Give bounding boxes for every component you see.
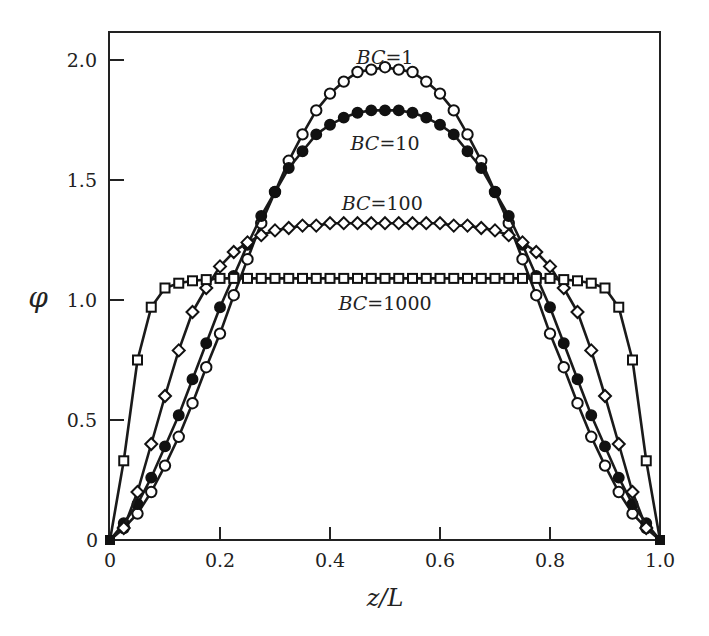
data-marker — [559, 275, 568, 284]
data-marker — [449, 105, 459, 115]
data-marker — [381, 274, 390, 283]
data-marker — [352, 67, 362, 77]
data-marker — [325, 120, 335, 130]
x-tick-label: 1.0 — [645, 549, 675, 571]
data-marker — [202, 275, 211, 284]
data-marker — [188, 276, 197, 285]
data-marker — [229, 274, 238, 283]
data-marker — [628, 356, 637, 365]
data-marker — [546, 274, 555, 283]
x-axis-ticks: 00.20.40.60.81.0 — [104, 527, 675, 571]
y-tick-label: 1.0 — [67, 289, 97, 311]
data-marker — [271, 274, 280, 283]
data-marker — [147, 303, 156, 312]
data-marker — [614, 303, 623, 312]
data-marker — [352, 217, 364, 229]
data-marker — [119, 456, 128, 465]
data-marker — [559, 338, 569, 348]
data-marker — [339, 112, 349, 122]
data-marker — [146, 472, 156, 482]
data-marker — [532, 274, 541, 283]
data-marker — [614, 487, 624, 497]
data-marker — [504, 211, 514, 221]
data-marker — [379, 217, 391, 229]
series-label: BC=100 — [341, 192, 423, 214]
data-marker — [572, 374, 582, 384]
data-marker — [394, 274, 403, 283]
y-axis-ticks: 00.51.01.52.0 — [67, 49, 124, 551]
data-marker — [476, 163, 486, 173]
data-marker — [297, 146, 307, 156]
data-marker — [504, 274, 513, 283]
data-marker — [216, 274, 225, 283]
data-marker — [243, 274, 252, 283]
data-marker — [215, 328, 225, 338]
data-marker — [599, 390, 611, 402]
data-marker — [420, 217, 432, 229]
data-marker — [160, 441, 170, 451]
data-marker — [436, 274, 445, 283]
data-marker — [284, 163, 294, 173]
data-marker — [339, 76, 349, 86]
data-marker — [338, 217, 350, 229]
data-marker — [284, 274, 293, 283]
data-marker — [489, 224, 501, 236]
data-marker — [475, 222, 487, 234]
data-marker — [187, 374, 197, 384]
data-marker — [325, 88, 335, 98]
data-marker — [326, 274, 335, 283]
data-marker — [531, 290, 541, 300]
data-marker — [173, 344, 185, 356]
data-marker — [448, 220, 460, 232]
data-marker — [298, 274, 307, 283]
data-marker — [201, 338, 211, 348]
data-marker — [463, 274, 472, 283]
data-marker — [435, 88, 445, 98]
y-tick-label: 2.0 — [67, 49, 97, 71]
data-marker — [215, 302, 225, 312]
data-marker — [491, 274, 500, 283]
data-marker — [367, 274, 376, 283]
data-marker — [352, 108, 362, 118]
data-marker — [573, 276, 582, 285]
data-marker — [572, 306, 584, 318]
data-marker — [283, 222, 295, 234]
data-marker — [614, 472, 624, 482]
data-marker — [462, 129, 472, 139]
data-marker — [353, 274, 362, 283]
data-marker — [449, 129, 459, 139]
data-marker — [586, 432, 596, 442]
data-marker — [587, 279, 596, 288]
data-marker — [462, 146, 472, 156]
data-marker — [601, 284, 610, 293]
data-marker — [462, 220, 474, 232]
data-marker — [572, 398, 582, 408]
x-tick-label: 0 — [104, 549, 116, 571]
data-marker — [311, 129, 321, 139]
data-marker — [229, 290, 239, 300]
data-marker — [394, 105, 404, 115]
data-marker — [161, 284, 170, 293]
data-marker — [421, 112, 431, 122]
series-label: BC=1 — [356, 46, 414, 68]
data-marker — [393, 217, 405, 229]
chart: 00.20.40.60.81.0 00.51.01.52.0 BC=1BC=10… — [0, 0, 709, 636]
data-marker — [559, 362, 569, 372]
data-marker — [407, 67, 417, 77]
data-marker — [269, 224, 281, 236]
x-tick-label: 0.2 — [205, 549, 235, 571]
data-marker — [257, 274, 266, 283]
data-marker — [421, 76, 431, 86]
data-marker — [545, 302, 555, 312]
data-marker — [312, 274, 321, 283]
data-marker — [613, 438, 625, 450]
data-marker — [545, 328, 555, 338]
data-marker — [655, 535, 665, 545]
data-marker — [490, 187, 500, 197]
data-marker — [380, 105, 390, 115]
y-tick-label: 0.5 — [67, 409, 97, 431]
data-marker — [477, 274, 486, 283]
data-marker — [297, 129, 307, 139]
data-marker — [105, 535, 115, 545]
data-marker — [422, 274, 431, 283]
